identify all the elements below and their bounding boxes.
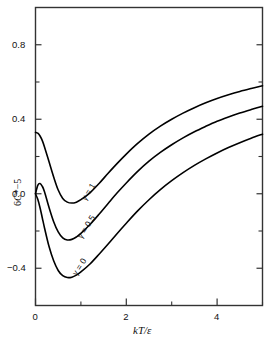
x-tick-label: 4 <box>214 311 219 322</box>
y-axis-title: 6C*−5 <box>12 179 23 206</box>
chart-canvas <box>0 0 272 338</box>
x-tick-label: 0 <box>33 311 38 322</box>
x-axis-title: kT/ε <box>133 324 151 336</box>
y-tick-label: −0.4 <box>7 262 26 273</box>
figure-chart-6cstar-vs-kT-epsilon: 0.80.40.0−0.40246C*−5kT/εγ = 1γ = 0.5γ =… <box>0 0 272 338</box>
x-tick-label: 2 <box>123 311 128 322</box>
axis-ticks <box>36 45 263 306</box>
curve-series-1 <box>36 106 263 240</box>
y-tick-label: 0.4 <box>12 113 25 124</box>
plot-frame <box>36 8 263 306</box>
curve-series-2 <box>36 134 263 278</box>
y-tick-label: 0.8 <box>12 39 25 50</box>
curve-series-0 <box>36 86 263 203</box>
